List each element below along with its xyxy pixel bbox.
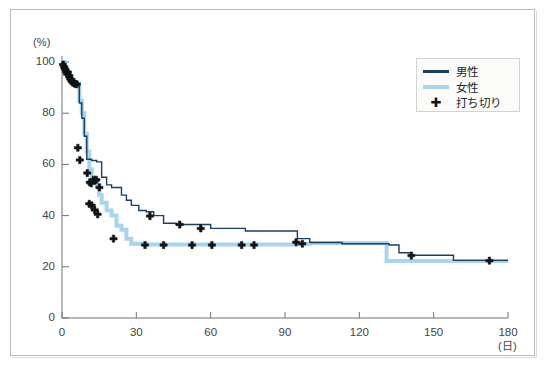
censored-marker	[160, 241, 167, 248]
x-axis-tick-label: 90	[270, 326, 300, 338]
y-axis-tick-label: 40	[29, 209, 55, 221]
censored-marker	[76, 156, 83, 163]
legend: 男性 女性 ✚ 打ち切り	[416, 58, 520, 112]
censored-marker	[188, 241, 195, 248]
legend-entry-censored: ✚ 打ち切り	[423, 94, 518, 110]
censored-marker	[146, 213, 153, 220]
censored-marker	[208, 241, 215, 248]
legend-label-male: 男性	[456, 63, 479, 79]
x-axis-tick-label: 180	[493, 326, 523, 338]
legend-label-censored: 打ち切り	[456, 94, 501, 110]
y-axis-tick-label: 0	[29, 311, 55, 323]
kaplan-meier-plot	[0, 0, 546, 373]
x-axis-tick-label: 0	[47, 326, 77, 338]
legend-line-swatch-female	[423, 85, 449, 89]
legend-label-female: 女性	[456, 79, 479, 95]
y-axis-tick-label: 20	[29, 260, 55, 272]
censored-marker	[197, 225, 204, 232]
censored-marker	[250, 241, 257, 248]
x-axis-tick-label: 120	[344, 326, 374, 338]
legend-entry-male: 男性	[423, 63, 518, 79]
figure-root: (%) (日) 0204060801000306090120150180 男性 …	[0, 0, 546, 373]
cross-icon: ✚	[423, 96, 449, 109]
y-axis-tick-label: 80	[29, 106, 55, 118]
y-axis-tick-label: 60	[29, 157, 55, 169]
censored-marker	[176, 221, 183, 228]
censored-marker	[486, 257, 493, 264]
x-axis-tick-label: 60	[196, 326, 226, 338]
legend-entry-female: 女性	[423, 79, 518, 95]
legend-line-swatch-male	[423, 70, 449, 73]
x-axis-tick-label: 30	[121, 326, 151, 338]
censored-marker	[238, 241, 245, 248]
x-axis-tick-label: 150	[419, 326, 449, 338]
censored-marker	[110, 235, 117, 242]
censored-marker	[74, 144, 81, 151]
y-axis-tick-label: 100	[29, 55, 55, 67]
